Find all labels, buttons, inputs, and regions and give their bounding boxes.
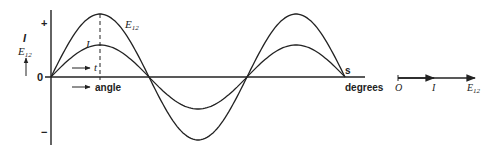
phasor-origin-label: O [395,82,402,93]
minus-label: − [41,126,47,138]
figure: + − 0 I E12 E12 I t angle s degrees O I … [0,0,502,155]
y-quantity-e-label: E12 [17,45,32,59]
y-quantity-i-label: I [23,32,27,44]
time-label: t [94,61,98,73]
current-curve-label: I [85,38,91,50]
phasor-current-label: I [431,82,436,93]
phasor-voltage-label: E12 [466,82,481,95]
wave-diagram [26,10,365,145]
degrees-label: degrees [345,82,384,93]
phasor-diagram [398,75,475,81]
zero-label: 0 [37,71,43,83]
e12-curve-label: E12 [124,18,139,32]
s-label: s [345,65,351,76]
angle-label: angle [95,82,122,93]
plus-label: + [41,17,47,29]
